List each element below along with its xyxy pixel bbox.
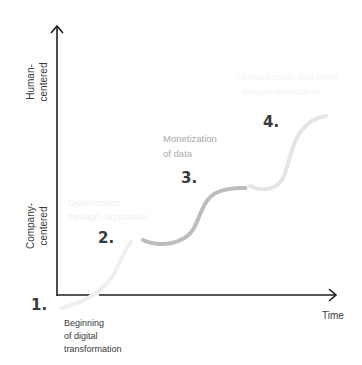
stage-3-desc-line1: Monetization	[163, 131, 217, 146]
stage-2-number: 2.	[98, 229, 114, 248]
y-bottom-line2: centered	[38, 193, 51, 259]
stage-1-desc-line3: transformation	[64, 343, 122, 356]
stage-4-desc-line2: people-orientation	[237, 84, 338, 99]
curve-stage-2	[143, 188, 246, 244]
y-axis-label-top: Human- centered	[25, 52, 50, 112]
stage-1-description: Beginning of digital transformation	[64, 317, 122, 356]
y-axis-label-bottom: Company- centered	[25, 193, 50, 259]
stage-4-description: Humanization and more people-orientation	[237, 69, 338, 99]
x-axis-label: Time	[322, 310, 344, 323]
y-top-line1: Human-	[25, 52, 38, 112]
stage-3-description: Monetization of data	[163, 131, 217, 161]
stage-1-number: 1.	[31, 296, 47, 315]
stage-1-desc-line1: Beginning	[64, 317, 122, 330]
stage-2-desc-line1: Optimization	[68, 196, 148, 210]
stage-4-number: 4.	[263, 113, 279, 132]
stage-1-desc-line2: of digital	[64, 330, 122, 343]
stage-3-desc-line2: of data	[163, 146, 217, 161]
y-bottom-line1: Company-	[25, 193, 38, 259]
stage-2-desc-line2: through digitization	[68, 210, 148, 224]
stage-4-desc-line1: Humanization and more	[237, 69, 338, 84]
curve-stage-1	[62, 242, 131, 308]
stage-3-number: 3.	[181, 169, 197, 188]
stage-2-description: Optimization through digitization	[68, 196, 148, 224]
curve-stage-3	[250, 116, 326, 189]
y-top-line2: centered	[38, 52, 51, 112]
